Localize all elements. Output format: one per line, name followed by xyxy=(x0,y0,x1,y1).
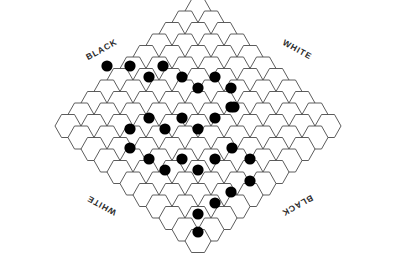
black-stone[interactable] xyxy=(209,71,220,82)
black-stone[interactable] xyxy=(192,123,203,134)
black-stone[interactable] xyxy=(225,101,236,112)
hex-board-diagram: BLACKWHITEWHITEBLACK xyxy=(0,0,398,253)
black-stone[interactable] xyxy=(143,112,154,123)
black-stone[interactable] xyxy=(226,142,237,153)
black-stone[interactable] xyxy=(209,112,220,123)
black-stone[interactable] xyxy=(192,82,203,93)
black-stone[interactable] xyxy=(244,153,255,164)
black-stone[interactable] xyxy=(225,186,236,197)
black-stone[interactable] xyxy=(159,164,170,175)
black-stone[interactable] xyxy=(225,82,236,93)
black-stone[interactable] xyxy=(176,112,187,123)
black-stone[interactable] xyxy=(244,175,255,186)
black-stone[interactable] xyxy=(124,142,135,153)
black-stone[interactable] xyxy=(192,208,203,219)
board-svg: BLACKWHITEWHITEBLACK xyxy=(0,0,398,253)
black-stone[interactable] xyxy=(124,60,135,71)
black-stone[interactable] xyxy=(209,197,220,208)
black-stone[interactable] xyxy=(159,123,170,134)
black-stone[interactable] xyxy=(209,153,220,164)
black-stone[interactable] xyxy=(192,164,203,175)
black-stone[interactable] xyxy=(157,60,168,71)
black-stone[interactable] xyxy=(143,71,154,82)
black-stone[interactable] xyxy=(124,123,135,134)
black-stone[interactable] xyxy=(101,60,112,71)
black-stone[interactable] xyxy=(143,153,154,164)
black-stone[interactable] xyxy=(176,153,187,164)
black-stone[interactable] xyxy=(192,226,203,237)
black-stone[interactable] xyxy=(176,71,187,82)
